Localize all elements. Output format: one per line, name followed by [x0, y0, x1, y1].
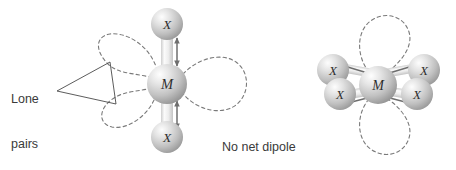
- lone-pair-lobe-axial-bottom: [360, 95, 410, 155]
- atom-label-x: X: [335, 87, 345, 102]
- atom-x-lower-left: X: [324, 78, 356, 110]
- atom-x-bottom: X: [151, 121, 183, 153]
- square-planar-mx4-structure: X X M X X: [317, 16, 440, 155]
- atom-label-x: X: [162, 17, 172, 32]
- lone-pairs-label-line1: Lone: [11, 92, 39, 107]
- atom-m-center: M: [147, 64, 187, 104]
- lone-pair-lobe-right: [181, 57, 247, 111]
- lone-pair-lobe-upper-left: [98, 34, 158, 80]
- leader-line-upper: [57, 62, 110, 91]
- atom-label-x: X: [412, 87, 422, 102]
- linear-mx2-structure: X M X: [57, 8, 247, 153]
- lone-pairs-label: Lone pairs: [11, 62, 39, 170]
- leader-line-lower: [57, 91, 116, 104]
- lone-pairs-leader-lines: [57, 62, 116, 104]
- atom-m-center: M: [359, 66, 397, 104]
- diagram-canvas: X M X: [0, 0, 456, 170]
- atom-x-lower-right: X: [401, 78, 433, 110]
- atom-label-x: X: [419, 63, 429, 78]
- atom-label-x: X: [328, 63, 338, 78]
- lone-pairs-label-line2: pairs: [11, 137, 39, 152]
- no-net-dipole-caption: No net dipole: [222, 140, 296, 155]
- atom-label-m: M: [371, 78, 385, 93]
- atom-label-x: X: [162, 130, 172, 145]
- atom-x-top: X: [151, 8, 183, 40]
- atom-label-m: M: [160, 76, 174, 92]
